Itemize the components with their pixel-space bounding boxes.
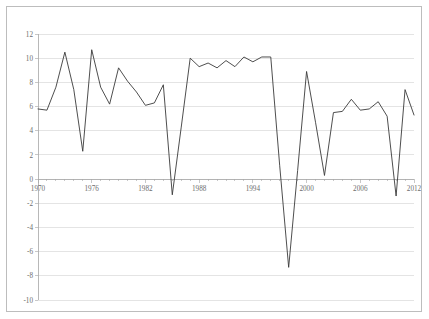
y-tick-label: -2 bbox=[27, 200, 33, 208]
y-tick-label: 6 bbox=[29, 103, 33, 111]
y-tick-label: -4 bbox=[27, 224, 33, 232]
y-tick-label: 4 bbox=[29, 127, 33, 135]
x-tick-label: 1982 bbox=[138, 185, 153, 193]
y-tick-label: -8 bbox=[27, 272, 33, 280]
line-chart: 121086420-2-4-6-8-10 1970197619821988199… bbox=[0, 0, 429, 319]
y-tick-label: -10 bbox=[23, 297, 33, 305]
y-tick-label: 12 bbox=[26, 31, 34, 39]
x-tick-label: 2006 bbox=[353, 185, 368, 193]
gridlines bbox=[38, 34, 414, 300]
y-axis-labels: 121086420-2-4-6-8-10 bbox=[23, 31, 33, 305]
y-tick-label: 0 bbox=[29, 176, 33, 184]
x-tick-label: 2000 bbox=[299, 185, 314, 193]
chart-figure: 121086420-2-4-6-8-10 1970197619821988199… bbox=[0, 0, 429, 319]
x-tick-label: 1976 bbox=[85, 185, 100, 193]
axis-ticks bbox=[35, 34, 414, 300]
y-tick-label: 2 bbox=[29, 152, 33, 160]
plot-area: 121086420-2-4-6-8-10 1970197619821988199… bbox=[0, 0, 429, 319]
y-tick-label: -6 bbox=[27, 248, 33, 256]
x-axis-labels: 19701976198219881994200020062012 bbox=[31, 185, 422, 193]
y-tick-label: 8 bbox=[29, 79, 33, 87]
x-tick-label: 1994 bbox=[246, 185, 261, 193]
x-tick-label: 1988 bbox=[192, 185, 207, 193]
axis-lines bbox=[38, 34, 414, 300]
x-tick-label: 2012 bbox=[407, 185, 422, 193]
y-tick-label: 10 bbox=[26, 55, 34, 63]
x-tick-label: 1970 bbox=[31, 185, 46, 193]
